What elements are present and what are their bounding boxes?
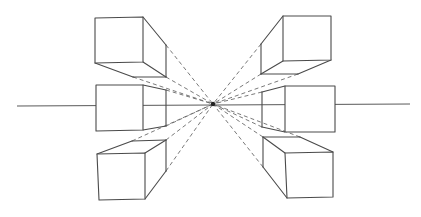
vanishing-point [211, 102, 215, 106]
guide-line [213, 104, 262, 127]
box-bottom-right [263, 137, 333, 198]
guide-line [213, 104, 263, 137]
guide-line [166, 104, 213, 171]
box-edge [143, 17, 166, 45]
diagram-svg [0, 0, 421, 217]
box-edge [95, 63, 133, 77]
box-edge [262, 127, 285, 132]
guide-line [213, 92, 262, 104]
box-top-right [261, 16, 331, 74]
box-edge [132, 140, 166, 141]
box-top-left [95, 17, 166, 77]
box-edge [263, 137, 285, 153]
box-edge [262, 86, 285, 92]
box-edge [143, 85, 166, 90]
box-edge [300, 137, 333, 152]
box-front-face [96, 85, 143, 131]
guide-line [166, 45, 213, 104]
box-front-face [285, 86, 335, 132]
box-middle-left [96, 85, 166, 131]
box-front-face [283, 16, 331, 61]
vanishing-guides [132, 44, 300, 171]
box-edge [145, 140, 166, 153]
box-edge [97, 141, 132, 154]
box-bottom-left [97, 140, 166, 200]
box-edge [261, 16, 283, 44]
boxes [95, 16, 335, 200]
perspective-diagram [0, 0, 421, 217]
box-edge [145, 171, 166, 199]
guide-line [213, 44, 261, 104]
box-edge [261, 61, 283, 74]
box-edge [143, 126, 166, 130]
box-edge [143, 62, 166, 77]
guide-line [213, 74, 261, 104]
box-front-face [285, 152, 333, 198]
box-front-face [95, 17, 143, 63]
box-edge [263, 167, 287, 198]
box-edge [298, 60, 331, 74]
box-front-face [97, 153, 145, 200]
box-middle-right [262, 86, 335, 132]
